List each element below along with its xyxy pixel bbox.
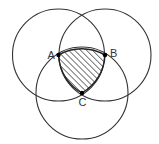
label-b: B xyxy=(110,47,117,59)
hatched-region xyxy=(59,49,106,93)
label-c: C xyxy=(79,96,87,108)
reuleaux-diagram: A B C xyxy=(0,0,159,144)
point-b xyxy=(103,53,107,57)
point-a xyxy=(56,53,60,57)
label-a: A xyxy=(48,49,56,61)
point-c xyxy=(80,91,84,95)
diagram-canvas: A B C xyxy=(0,0,159,144)
